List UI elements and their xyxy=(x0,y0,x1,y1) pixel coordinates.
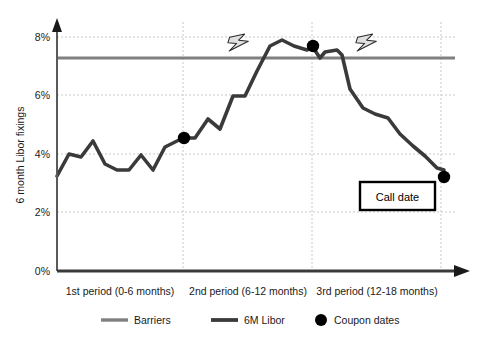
legend-label-coupon-dates: Coupon dates xyxy=(334,314,399,326)
y-axis-title: 6 month Libor fixings xyxy=(14,107,26,204)
coupon-dot-1 xyxy=(178,132,190,144)
chart-legend: Barriers 6M Libor Coupon dates xyxy=(101,314,399,326)
libor-barrier-chart: 8% 6% 4% 2% 0% 6 month Libor fixings 1st… xyxy=(0,0,482,343)
chart-container: 8% 6% 4% 2% 0% 6 month Libor fixings 1st… xyxy=(0,0,482,343)
y-tick-2: 2% xyxy=(35,206,50,218)
call-date-label: Call date xyxy=(376,191,419,203)
y-tick-0: 0% xyxy=(35,265,50,277)
y-tick-6: 6% xyxy=(35,89,50,101)
x-category-labels: 1st period (0-6 months) 2nd period (6-12… xyxy=(66,285,438,297)
x-category-3: 3rd period (12-18 months) xyxy=(316,285,437,297)
legend-marker-coupon-dates xyxy=(315,314,327,326)
call-date-annotation: Call date xyxy=(360,182,435,210)
x-category-1: 1st period (0-6 months) xyxy=(66,285,175,297)
legend-label-barriers: Barriers xyxy=(134,314,171,326)
x-category-2: 2nd period (6-12 months) xyxy=(189,285,307,297)
coupon-dot-2 xyxy=(307,40,319,52)
coupon-dot-3 xyxy=(438,171,450,183)
legend-label-6m-libor: 6M Libor xyxy=(244,314,285,326)
y-tick-8: 8% xyxy=(35,31,50,43)
y-tick-4: 4% xyxy=(35,148,50,160)
